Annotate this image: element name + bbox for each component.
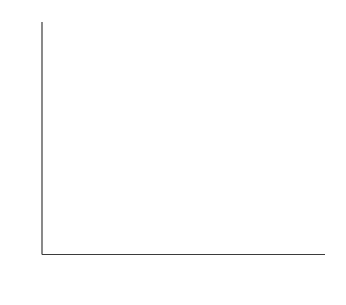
axes bbox=[42, 22, 325, 255]
chart-container bbox=[0, 0, 346, 305]
government-spending-area-chart bbox=[0, 0, 346, 305]
